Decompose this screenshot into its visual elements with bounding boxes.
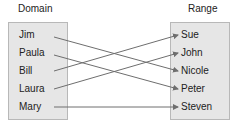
- mapping-arrows: [0, 0, 236, 126]
